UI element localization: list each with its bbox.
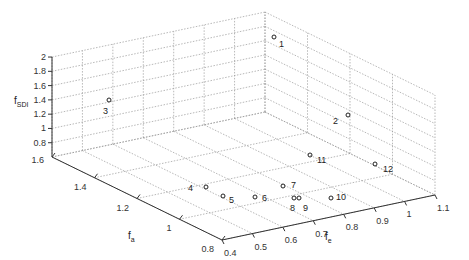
floor-grid-line xyxy=(113,144,283,227)
fe-tick xyxy=(313,221,315,225)
data-point-marker xyxy=(204,185,208,189)
data-points: 123456789101112 xyxy=(103,35,393,213)
fa-tick-label: 1 xyxy=(166,223,171,233)
data-point-marker xyxy=(253,195,257,199)
wall-grid-line xyxy=(52,55,265,100)
fa-tick xyxy=(95,174,98,178)
fe-tick xyxy=(222,240,224,244)
fe-tick-label: 1 xyxy=(407,209,412,219)
data-point-label: 7 xyxy=(291,180,296,190)
fe-tick xyxy=(405,201,407,205)
data-point-marker xyxy=(297,196,301,200)
data-point-marker xyxy=(221,194,225,198)
fe-tick-label: 0.4 xyxy=(224,248,237,258)
z-tick-label: 1.6 xyxy=(33,81,46,91)
data-point-marker xyxy=(308,153,312,157)
data-point-marker xyxy=(107,98,111,102)
data-point-label: 3 xyxy=(103,106,108,116)
fa-tick-label: 0.8 xyxy=(201,244,214,254)
data-point-label: 10 xyxy=(336,192,346,202)
fa-tick xyxy=(180,215,183,219)
wall-grid-line xyxy=(52,12,265,57)
data-point-label: 4 xyxy=(188,183,193,193)
wall-grid-line xyxy=(52,112,265,157)
fe-tick xyxy=(283,227,285,231)
fe-axis-line xyxy=(222,195,435,240)
data-point-marker xyxy=(329,196,333,200)
data-point-marker xyxy=(292,196,296,200)
wall-grid-line xyxy=(265,26,435,109)
x-axis-label-fa: fa xyxy=(128,230,135,243)
tick-labels: 0.811.21.41.61.820.811.21.41.60.40.50.60… xyxy=(31,52,449,258)
data-point-marker xyxy=(272,35,276,39)
fa-tick-label: 1.6 xyxy=(31,155,44,165)
data-point-label: 6 xyxy=(262,193,267,203)
wall-grid-line xyxy=(52,98,265,143)
fe-tick-label: 0.9 xyxy=(376,216,389,226)
fe-tick xyxy=(374,208,376,212)
data-point-marker xyxy=(373,162,377,166)
data-point-label: 8 xyxy=(290,203,295,213)
data-point-marker xyxy=(346,113,350,117)
z-tick-label: 1.4 xyxy=(33,95,46,105)
scatter-3d-chart: 0.811.21.41.61.820.811.21.41.60.40.50.60… xyxy=(0,0,469,260)
fa-tick-label: 1.2 xyxy=(116,203,129,213)
fe-tick-label: 1.1 xyxy=(437,203,450,213)
wall-grid-line xyxy=(52,41,265,86)
fe-tick xyxy=(435,195,437,199)
z-axis-label: fSDI xyxy=(14,95,29,108)
z-tick-label: 1 xyxy=(41,123,46,133)
fe-tick-label: 0.8 xyxy=(346,222,359,232)
data-point-label: 2 xyxy=(333,116,338,126)
data-point-label: 1 xyxy=(279,39,284,49)
fe-tick-label: 0.6 xyxy=(285,235,298,245)
z-tick-label: 2 xyxy=(41,52,46,62)
data-point-label: 12 xyxy=(383,164,393,174)
fe-tick-label: 0.5 xyxy=(254,242,267,252)
wall-grid-line xyxy=(52,26,265,71)
grid-lines xyxy=(52,12,435,240)
fa-tick-label: 1.4 xyxy=(74,182,87,192)
z-tick-label: 0.8 xyxy=(33,138,46,148)
floor-grid-line xyxy=(180,174,393,219)
fe-tick xyxy=(344,214,346,218)
floor-grid-line xyxy=(95,133,308,178)
z-tick-label: 1.8 xyxy=(33,66,46,76)
data-point-label: 5 xyxy=(229,195,234,205)
wall-grid-line xyxy=(52,69,265,114)
data-point-label: 9 xyxy=(303,203,308,213)
z-tick-label: 1.2 xyxy=(33,109,46,119)
y-axis-label-fe: fe xyxy=(325,231,332,244)
data-point-label: 11 xyxy=(317,155,326,165)
fe-tick xyxy=(252,234,254,238)
data-point-marker xyxy=(281,184,285,188)
wall-grid-line xyxy=(52,83,265,128)
fa-tick xyxy=(137,195,140,199)
